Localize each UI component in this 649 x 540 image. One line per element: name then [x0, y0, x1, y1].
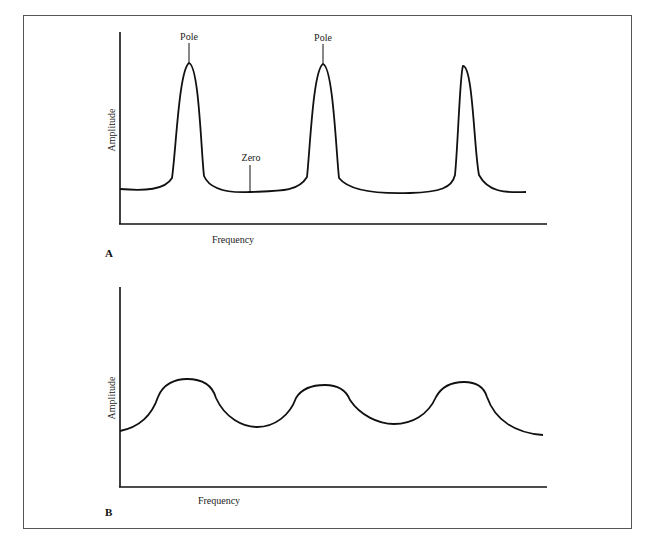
panel-a: Pole Pole Zero Amplitude Frequency A	[105, 31, 547, 259]
zero-label: Zero	[242, 152, 261, 163]
panel-b-y-axis-label: Amplitude	[106, 376, 117, 419]
figure-canvas: Pole Pole Zero Amplitude Frequency A Amp…	[0, 0, 649, 540]
panel-a-letter: A	[105, 247, 113, 259]
panel-a-response-curve	[120, 63, 526, 193]
panel-b-letter: B	[105, 506, 113, 518]
panel-a-x-axis-label: Frequency	[212, 234, 254, 245]
pole-1-label: Pole	[180, 31, 198, 42]
panel-b-response-curve	[120, 379, 543, 435]
panel-b-x-axis-label: Frequency	[198, 495, 240, 506]
pole-2-label: Pole	[314, 32, 332, 43]
panel-b: Amplitude Frequency B	[105, 287, 547, 518]
panel-a-y-axis-label: Amplitude	[106, 108, 117, 151]
